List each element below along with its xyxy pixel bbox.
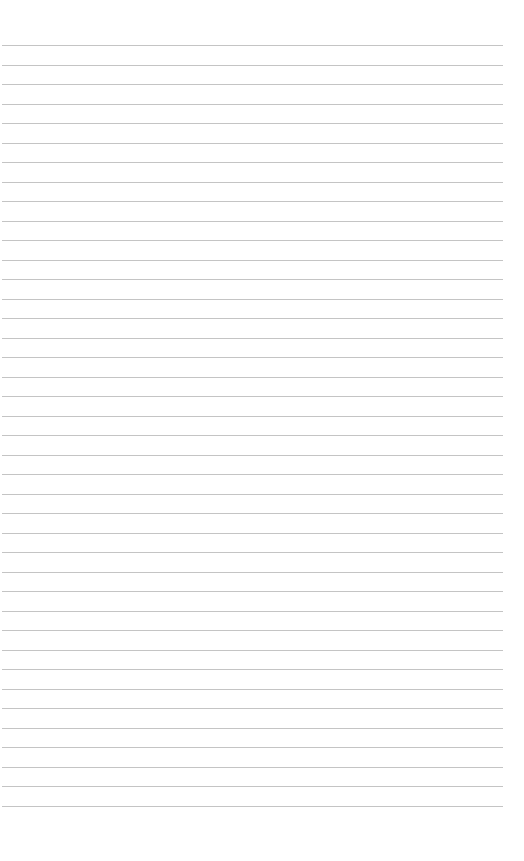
ruled-line [2,572,503,573]
ruled-line [2,299,503,300]
ruled-line [2,45,503,46]
ruled-line [2,767,503,768]
ruled-line [2,474,503,475]
ruled-line [2,786,503,787]
ruled-line [2,182,503,183]
ruled-line [2,143,503,144]
ruled-line [2,396,503,397]
ruled-line [2,65,503,66]
ruled-line [2,513,503,514]
ruled-line [2,669,503,670]
ruled-line [2,552,503,553]
ruled-line [2,689,503,690]
ruled-line [2,611,503,612]
ruled-line [2,533,503,534]
ruled-line [2,162,503,163]
ruled-line [2,806,503,807]
ruled-line [2,728,503,729]
ruled-line [2,416,503,417]
ruled-line [2,650,503,651]
ruled-line [2,104,503,105]
ruled-line [2,708,503,709]
ruled-line [2,494,503,495]
ruled-line [2,123,503,124]
ruled-line [2,630,503,631]
ruled-line [2,435,503,436]
ruled-line [2,221,503,222]
ruled-line [2,455,503,456]
ruled-line [2,279,503,280]
ruled-line [2,201,503,202]
ruled-line [2,338,503,339]
ruled-line [2,591,503,592]
ruled-line [2,240,503,241]
ruled-line [2,260,503,261]
ruled-line [2,84,503,85]
ruled-line [2,357,503,358]
ruled-line [2,747,503,748]
ruled-line [2,377,503,378]
ruled-line [2,318,503,319]
lined-page [0,0,524,861]
